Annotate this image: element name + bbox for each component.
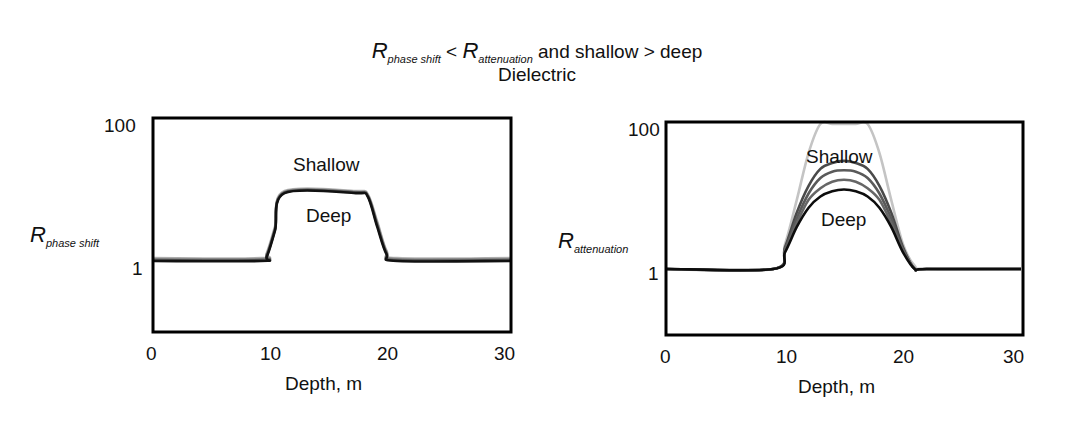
left-ylabel: Rphase shift	[30, 222, 99, 249]
left-xtick-20: 20	[377, 343, 398, 365]
curve-shallow-envelope-	[667, 122, 1021, 271]
left-xtick-0: 0	[146, 343, 157, 365]
left-label-shallow: Shallow	[293, 154, 360, 176]
right-label-shallow: Shallow	[806, 146, 873, 168]
right-ylabel-main: R	[558, 228, 574, 253]
right-ylabel-sub: attenuation	[574, 243, 628, 255]
right-label-deep: Deep	[821, 209, 866, 231]
left-ylabel-main: R	[30, 222, 46, 247]
right-xtick-0: 0	[660, 346, 671, 368]
left-label-deep: Deep	[306, 205, 351, 227]
right-xtick-30: 30	[1003, 346, 1024, 368]
left-ytick-100: 100	[104, 115, 136, 137]
left-xtick-10: 10	[260, 343, 281, 365]
right-ytick-100: 100	[628, 119, 660, 141]
right-ytick-1: 1	[648, 263, 659, 285]
right-xtick-10: 10	[776, 346, 797, 368]
right-ylabel: Rattenuation	[558, 228, 628, 255]
plots-canvas	[0, 0, 1074, 433]
right-plot-curves	[667, 122, 1021, 271]
left-xtick-30: 30	[494, 343, 515, 365]
left-ylabel-sub: phase shift	[46, 237, 99, 249]
left-ytick-1: 1	[132, 258, 143, 280]
left-xlabel: Depth, m	[285, 373, 362, 395]
right-xtick-20: 20	[893, 346, 914, 368]
right-xlabel: Depth, m	[798, 376, 875, 398]
